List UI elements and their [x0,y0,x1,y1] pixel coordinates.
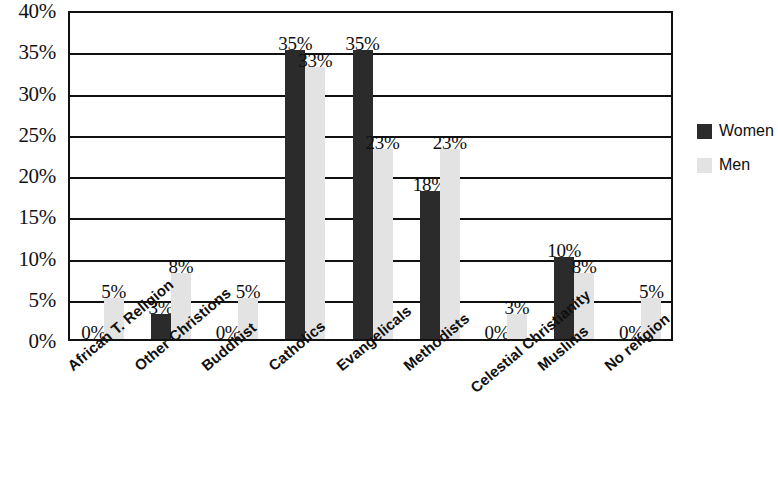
bar-chart: 40%35%30%25%20%15%10%5%0% 0%5%3%8%0%5%35… [0,0,778,486]
y-tick-label: 35% [18,42,56,63]
y-tick-label: 5% [29,289,56,310]
y-tick-label: 20% [18,166,56,187]
bar-men [440,149,460,339]
chart-legend: WomenMen [697,122,777,190]
legend-swatch-icon [697,124,712,139]
legend-item-women[interactable]: Women [697,122,777,140]
legend-item-men[interactable]: Men [697,156,777,174]
bar-women [420,191,440,340]
y-tick-label: 30% [18,83,56,104]
bar-value-label: 5% [91,282,137,301]
bar-value-label: 8% [561,257,607,276]
y-tick-label: 15% [18,207,56,228]
bar-women [353,50,373,339]
bar-men [305,67,325,339]
y-tick-label: 40% [18,1,56,22]
bar-men [373,149,393,339]
bar-value-label: 5% [628,282,674,301]
bar-value-label: 33% [292,51,338,70]
bar-value-label: 3% [494,298,540,317]
legend-label: Men [719,157,750,173]
bar-women [285,50,305,339]
legend-swatch-icon [697,158,712,173]
legend-label: Women [719,123,774,139]
bar-value-label: 23% [427,133,473,152]
y-tick-label: 25% [18,124,56,145]
bar-value-label: 35% [340,34,386,53]
y-tick-label: 10% [18,248,56,269]
bar-value-label: 8% [158,257,204,276]
x-axis: African T. ReligionOther ChristionsBuddh… [0,341,778,486]
bar-value-label: 23% [360,133,406,152]
